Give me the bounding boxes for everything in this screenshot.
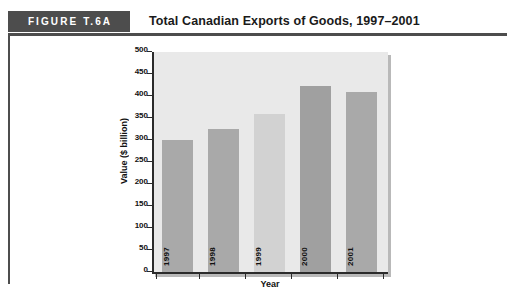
y-axis-tick-label: 400 bbox=[135, 89, 148, 98]
y-axis-line bbox=[152, 52, 154, 274]
y-axis-tick: 50 bbox=[152, 249, 153, 250]
y-axis-tick: 0 bbox=[152, 271, 153, 272]
y-axis-tick-label: 50 bbox=[139, 243, 148, 252]
y-axis-tick-label: 200 bbox=[135, 177, 148, 186]
bar-category-label: 2001 bbox=[346, 247, 377, 266]
y-axis-title: Value ($ billion) bbox=[119, 118, 129, 184]
bar-category-label: 2000 bbox=[300, 247, 331, 266]
x-axis-line bbox=[152, 272, 388, 274]
y-axis-tick-label: 100 bbox=[135, 221, 148, 230]
y-axis-tick: 300 bbox=[152, 139, 153, 140]
bar-category-label: 1999 bbox=[254, 247, 285, 266]
y-axis-tick-label: 300 bbox=[135, 133, 148, 142]
x-axis-title: Year bbox=[152, 279, 388, 289]
figure-title: Total Canadian Exports of Goods, 1997–20… bbox=[149, 11, 420, 32]
y-axis-tick-label: 450 bbox=[135, 67, 148, 76]
bar-category-label: 1997 bbox=[162, 247, 193, 266]
y-axis-tick: 150 bbox=[152, 205, 153, 206]
header-divider-rule bbox=[8, 33, 507, 36]
figure-header: FIGURE T.6A Total Canadian Exports of Go… bbox=[8, 11, 507, 34]
bar-category-label: 1998 bbox=[208, 247, 239, 266]
bar: 2000 bbox=[300, 86, 331, 272]
figure-number-badge: FIGURE T.6A bbox=[8, 11, 130, 32]
y-axis-tick: 100 bbox=[152, 227, 153, 228]
bar: 1997 bbox=[162, 140, 193, 272]
y-axis-tick-label: 500 bbox=[135, 45, 148, 54]
y-axis-tick: 500 bbox=[152, 51, 153, 52]
y-axis-tick-label: 350 bbox=[135, 111, 148, 120]
bar: 1999 bbox=[254, 114, 285, 272]
y-axis-tick: 350 bbox=[152, 117, 153, 118]
y-axis-tick: 450 bbox=[152, 73, 153, 74]
y-axis-tick-label: 250 bbox=[135, 155, 148, 164]
figure-frame-left-border bbox=[8, 33, 10, 284]
y-axis-tick: 400 bbox=[152, 95, 153, 96]
bar: 2001 bbox=[346, 92, 377, 272]
y-axis-tick: 250 bbox=[152, 161, 153, 162]
bar: 1998 bbox=[208, 129, 239, 272]
bar-chart: 500450400350300250200150100500 199719981… bbox=[152, 52, 388, 274]
y-axis-tick: 200 bbox=[152, 183, 153, 184]
y-axis-tick-label: 150 bbox=[135, 199, 148, 208]
y-axis-tick-label: 0 bbox=[144, 265, 148, 274]
figure-container: FIGURE T.6A Total Canadian Exports of Go… bbox=[0, 0, 515, 296]
plot-area: 500450400350300250200150100500 199719981… bbox=[152, 52, 388, 274]
